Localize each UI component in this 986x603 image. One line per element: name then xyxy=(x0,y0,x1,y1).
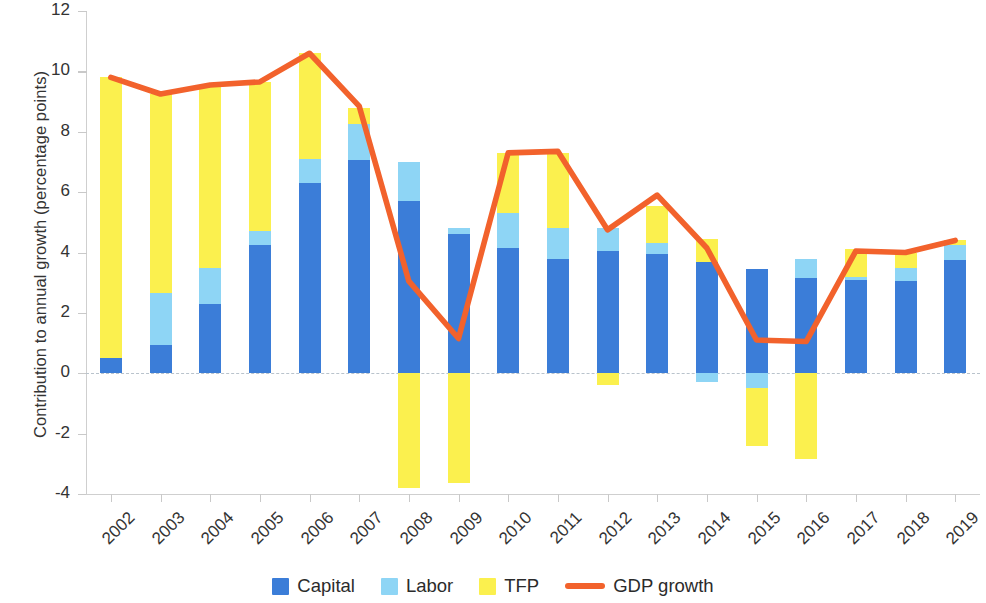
legend-label: Capital xyxy=(297,575,355,597)
legend-color-swatch-icon xyxy=(479,578,496,595)
legend-line-swatch-icon xyxy=(565,583,605,589)
x-tick xyxy=(210,494,211,502)
legend-color-swatch-icon xyxy=(272,578,289,595)
legend-label: Labor xyxy=(406,575,453,597)
y-tick-label: 10 xyxy=(51,60,70,80)
y-tick-label: -2 xyxy=(55,423,70,443)
x-tick xyxy=(260,494,261,502)
x-tick xyxy=(906,494,907,502)
y-axis-title: Contribution to annual growth (percentag… xyxy=(31,5,50,505)
x-tick xyxy=(707,494,708,502)
x-axis-line xyxy=(86,494,980,495)
x-tick xyxy=(409,494,410,502)
legend-label: TFP xyxy=(504,575,539,597)
x-tick xyxy=(856,494,857,502)
y-tick-label: 0 xyxy=(61,362,70,382)
x-tick xyxy=(757,494,758,502)
x-tick xyxy=(111,494,112,502)
x-tick xyxy=(161,494,162,502)
y-tick-label: 6 xyxy=(61,181,70,201)
legend-item-gdp-growth[interactable]: GDP growth xyxy=(565,575,713,597)
x-tick xyxy=(310,494,311,502)
gdp-growth-line xyxy=(86,11,980,494)
y-tick-label: 4 xyxy=(61,242,70,262)
x-tick xyxy=(558,494,559,502)
legend-item-labor[interactable]: Labor xyxy=(381,575,453,597)
y-tick-label: 12 xyxy=(51,0,70,20)
y-tick-label: 2 xyxy=(61,302,70,322)
x-tick xyxy=(955,494,956,502)
y-tick-label: -4 xyxy=(55,483,70,503)
x-tick xyxy=(657,494,658,502)
x-tick xyxy=(508,494,509,502)
legend-item-tfp[interactable]: TFP xyxy=(479,575,539,597)
chart-legend: CapitalLaborTFPGDP growth xyxy=(0,575,986,597)
legend-item-capital[interactable]: Capital xyxy=(272,575,355,597)
x-tick xyxy=(459,494,460,502)
x-tick xyxy=(359,494,360,502)
x-tick xyxy=(608,494,609,502)
x-tick xyxy=(806,494,807,502)
y-tick-label: 8 xyxy=(61,121,70,141)
legend-color-swatch-icon xyxy=(381,578,398,595)
legend-label: GDP growth xyxy=(613,575,713,597)
chart-root: Contribution to annual growth (percentag… xyxy=(0,0,986,603)
